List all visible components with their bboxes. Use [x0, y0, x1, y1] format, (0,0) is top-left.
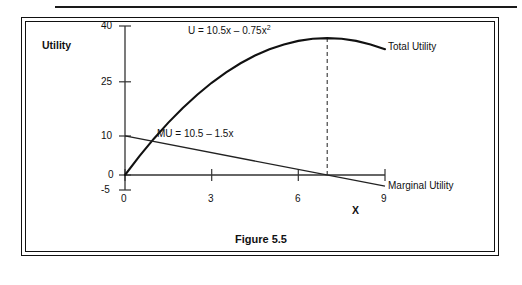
total-utility-curve [125, 38, 385, 175]
y-tick-label-minus5: -5 [101, 185, 110, 195]
y-axis-title: Utility [42, 40, 71, 51]
y-tick-label-0: 0 [108, 170, 114, 180]
total-utility-equation-text: U = 10.5x – 0.75x [188, 25, 267, 36]
y-tick-label-25: 25 [101, 77, 112, 87]
x-tick-label-6: 6 [295, 194, 301, 204]
marginal-utility-equation: MU = 10.5 – 1.5x [157, 129, 233, 139]
x-tick-label-9: 9 [381, 194, 387, 204]
x-tick-label-0: 0 [121, 194, 127, 204]
y-tick-label-10: 10 [101, 131, 112, 141]
marginal-utility-line [125, 136, 385, 186]
series-label-total-utility: Total Utility [388, 42, 436, 52]
total-utility-equation-exponent: 2 [267, 24, 271, 31]
x-tick-label-3: 3 [208, 194, 214, 204]
x-axis-title: X [352, 205, 359, 216]
total-utility-equation: U = 10.5x – 0.75x2 [188, 24, 271, 36]
series-label-marginal-utility: Marginal Utility [388, 181, 454, 191]
y-tick-label-40: 40 [101, 21, 112, 31]
figure-caption: Figure 5.5 [0, 233, 522, 245]
